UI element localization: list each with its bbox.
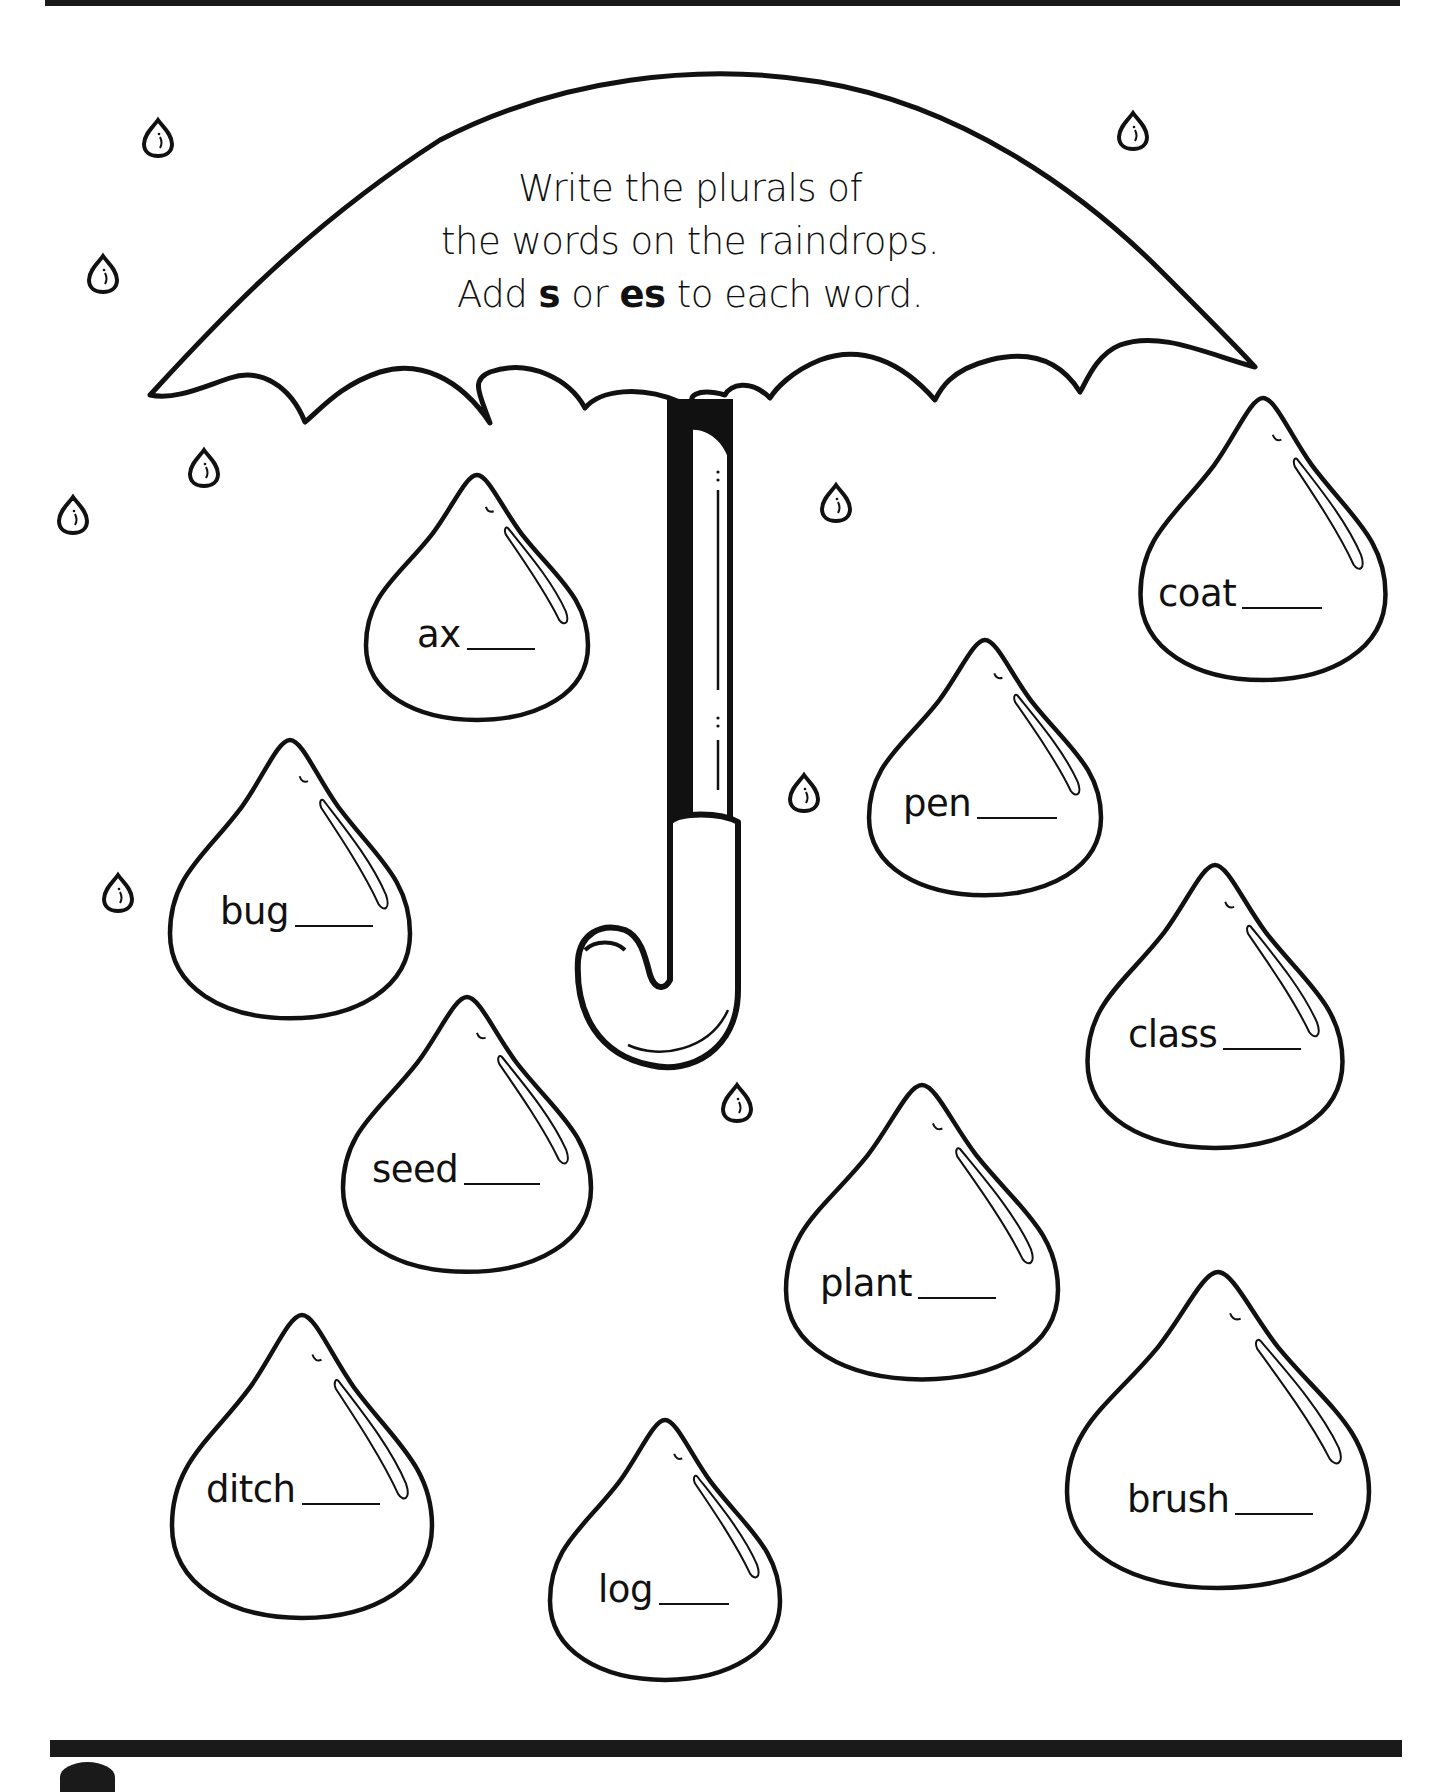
raindrop-class: class: [1128, 1013, 1301, 1056]
raindrop-word: class: [1128, 1013, 1217, 1056]
answer-blank[interactable]: [977, 816, 1057, 819]
raindrop-word: coat: [1158, 572, 1236, 615]
raindrop-seed: seed: [372, 1148, 540, 1191]
instructions-text-part: or: [560, 273, 619, 316]
raindrop-word: pen: [903, 782, 971, 825]
answer-blank[interactable]: [302, 1502, 380, 1505]
answer-blank[interactable]: [918, 1296, 996, 1299]
answer-blank[interactable]: [659, 1602, 729, 1605]
instructions-line-1: Write the plurals of: [380, 162, 1000, 215]
page-number-circle: [60, 1762, 115, 1792]
instructions-line-2: the words on the raindrops.: [380, 215, 1000, 268]
raindrop-plant: plant: [820, 1262, 996, 1305]
suffix-s-bold: s: [539, 273, 561, 316]
instructions-text-part: to each word.: [666, 273, 923, 316]
suffix-es-bold: es: [619, 273, 665, 316]
bottom-border-bar: [50, 1740, 1402, 1757]
raindrop-bug: bug: [220, 890, 373, 933]
answer-blank[interactable]: [295, 924, 373, 927]
raindrop-word: seed: [372, 1148, 458, 1191]
instructions-text-part: Add: [457, 273, 538, 316]
answer-blank[interactable]: [1242, 606, 1322, 609]
answer-blank[interactable]: [467, 647, 535, 650]
answer-blank[interactable]: [464, 1182, 540, 1185]
raindrop-coat: coat: [1158, 572, 1322, 615]
raindrop-log: log: [598, 1568, 729, 1611]
instructions-line-3: Add s or es to each word.: [380, 268, 1000, 321]
umbrella-handle: [578, 402, 738, 1067]
raindrop-pen: pen: [903, 782, 1057, 825]
answer-blank[interactable]: [1223, 1047, 1301, 1050]
raindrop-ax: ax: [417, 613, 535, 656]
raindrop-word: plant: [820, 1262, 912, 1305]
raindrop-word: bug: [220, 890, 289, 933]
raindrop-word: ditch: [206, 1468, 296, 1511]
instructions-text: Write the plurals of the words on the ra…: [380, 162, 1000, 321]
answer-blank[interactable]: [1235, 1512, 1313, 1515]
raindrop-word: brush: [1127, 1478, 1229, 1521]
raindrop-word: ax: [417, 613, 461, 656]
raindrop-ditch: ditch: [206, 1468, 380, 1511]
raindrop-brush: brush: [1127, 1478, 1313, 1521]
raindrop-word: log: [598, 1568, 653, 1611]
